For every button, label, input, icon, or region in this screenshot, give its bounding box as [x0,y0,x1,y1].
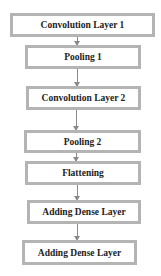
node-label: Convolution Layer 2 [42,93,126,103]
arrow-down-icon [76,153,77,161]
node-label: Adding Dense Layer [42,207,125,217]
arrow-down-icon [76,110,77,130]
arrow-down-icon [77,69,78,86]
node-pooling-2: Pooling 2 [24,130,141,153]
node-convolution-layer-1: Convolution Layer 1 [10,13,155,37]
node-label: Pooling 1 [64,52,102,62]
arrow-down-icon [77,224,78,240]
node-label: Pooling 2 [64,137,102,147]
node-pooling-1: Pooling 1 [25,45,141,69]
arrow-down-icon [77,185,78,200]
node-label: Convolution Layer 1 [41,20,125,30]
node-label: Flattening [62,168,104,178]
node-label: Adding Dense Layer [38,248,121,258]
node-flattening: Flattening [25,161,141,185]
node-convolution-layer-2: Convolution Layer 2 [26,86,141,110]
arrow-down-icon [77,37,78,45]
node-adding-dense-layer-2: Adding Dense Layer [22,240,137,265]
node-adding-dense-layer-1: Adding Dense Layer [27,200,141,224]
